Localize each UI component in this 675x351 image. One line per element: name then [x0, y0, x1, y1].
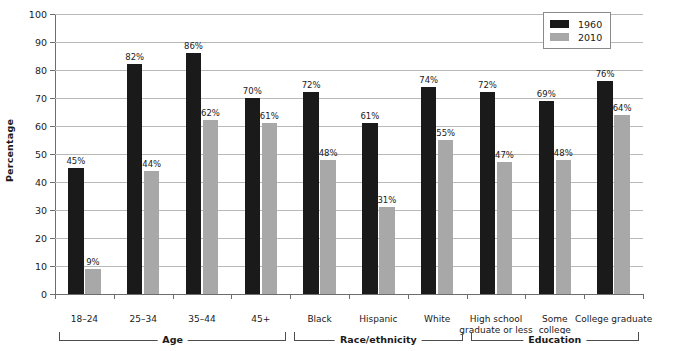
y-tick-label: 100	[29, 9, 47, 20]
y-tick-label: 30	[35, 205, 47, 216]
legend-item[interactable]: 1960	[550, 18, 602, 30]
bars-layer: 45%9%82%44%86%62%70%61%72%48%61%31%74%55…	[55, 14, 643, 294]
bar-value-label: 61%	[260, 111, 279, 121]
bar-value-label: 9%	[86, 257, 100, 267]
bar: 55%	[438, 140, 454, 294]
bar: 45%	[68, 168, 84, 294]
bar: 61%	[362, 123, 378, 294]
bar-value-label: 72%	[302, 80, 321, 90]
bar-value-label: 55%	[436, 128, 455, 138]
bar-value-label: 74%	[419, 75, 438, 85]
bar-value-label: 45%	[66, 156, 85, 166]
bar: 62%	[203, 120, 219, 294]
legend-label: 1960	[578, 19, 602, 30]
group-bracket-label: Age	[157, 334, 188, 345]
y-tick-label: 60	[35, 121, 47, 132]
group-bracket-label: Education	[523, 334, 586, 345]
bar-value-label: 31%	[377, 195, 396, 205]
bar-value-label: 72%	[478, 80, 497, 90]
y-tick-label: 70	[35, 93, 47, 104]
bar: 76%	[597, 81, 613, 294]
bar-value-label: 47%	[495, 150, 514, 160]
bar: 9%	[85, 269, 101, 294]
legend-item[interactable]: 2010	[550, 31, 602, 43]
x-tick-mark	[349, 294, 350, 299]
x-category-label: College graduate	[568, 314, 659, 325]
x-tick-mark	[643, 294, 644, 299]
y-tick-label: 20	[35, 233, 47, 244]
bar: 61%	[262, 123, 278, 294]
x-tick-mark	[467, 294, 468, 299]
legend-label: 2010	[578, 32, 602, 43]
group-bracket: Education	[471, 332, 639, 342]
plot-area: 0102030405060708090100 45%9%82%44%86%62%…	[55, 14, 643, 294]
bar-value-label: 48%	[319, 148, 338, 158]
legend-rows: 19602010	[550, 18, 602, 43]
bar-value-label: 76%	[596, 69, 615, 79]
legend: 19602010	[543, 12, 611, 49]
group-bracket: Race/ethnicity	[294, 332, 462, 342]
x-tick-mark	[584, 294, 585, 299]
x-tick-mark	[55, 294, 56, 299]
legend-swatch	[550, 20, 569, 28]
x-tick-mark	[525, 294, 526, 299]
bar: 48%	[556, 160, 572, 294]
x-tick-mark	[114, 294, 115, 299]
y-tick-label: 10	[35, 261, 47, 272]
bar-value-label: 48%	[554, 148, 573, 158]
bar: 72%	[480, 92, 496, 294]
bar: 74%	[421, 87, 437, 294]
bar: 86%	[186, 53, 202, 294]
bar: 69%	[539, 101, 555, 294]
y-tick-label: 50	[35, 149, 47, 160]
y-tick-label: 0	[41, 289, 47, 300]
bar-chart: Percentage 0102030405060708090100 45%9%8…	[0, 0, 675, 351]
bar-value-label: 82%	[125, 52, 144, 62]
x-tick-mark	[408, 294, 409, 299]
bar-value-label: 44%	[142, 159, 161, 169]
bar: 48%	[320, 160, 336, 294]
bar-value-label: 70%	[243, 86, 262, 96]
bar-value-label: 69%	[537, 89, 556, 99]
x-tick-mark	[231, 294, 232, 299]
bar: 72%	[303, 92, 319, 294]
x-tick-mark	[173, 294, 174, 299]
bar: 47%	[497, 162, 513, 294]
group-bracket-label: Race/ethnicity	[335, 334, 422, 345]
x-tick-mark	[290, 294, 291, 299]
bar: 31%	[379, 207, 395, 294]
bar: 70%	[245, 98, 261, 294]
group-bracket: Age	[59, 332, 286, 342]
bar: 44%	[144, 171, 160, 294]
y-axis-title: Percentage	[2, 0, 18, 300]
legend-swatch	[550, 33, 569, 41]
bar: 82%	[127, 64, 143, 294]
bar-value-label: 62%	[201, 108, 220, 118]
y-tick-label: 40	[35, 177, 47, 188]
bar-value-label: 61%	[360, 111, 379, 121]
bar-value-label: 86%	[184, 41, 203, 51]
y-tick-label: 80	[35, 65, 47, 76]
bar: 64%	[614, 115, 630, 294]
y-tick-label: 90	[35, 37, 47, 48]
y-axis-title-label: Percentage	[5, 118, 16, 181]
bar-value-label: 64%	[613, 103, 632, 113]
